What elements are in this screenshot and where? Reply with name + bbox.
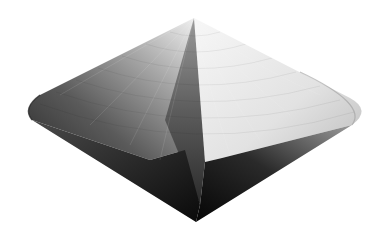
bicone-render [0,0,384,239]
right-upper-face [194,18,362,162]
left-upper-face [28,18,194,160]
